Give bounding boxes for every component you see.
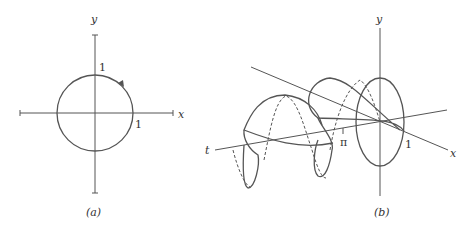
tick-pi: π <box>340 136 347 149</box>
y-label-b: y <box>375 13 383 26</box>
y-label-a: y <box>90 13 98 26</box>
tick-y-a: 1 <box>99 61 106 74</box>
tick-one-b: 1 <box>405 138 412 151</box>
x-label-b: x <box>450 147 457 160</box>
t-label: t <box>205 144 210 157</box>
caption-b: (b) <box>374 206 390 219</box>
caption-a: (a) <box>86 206 101 219</box>
figure: y 1 1 x (a) t y π 1 x (b) <box>0 0 472 229</box>
panel-b <box>215 28 448 196</box>
panel-a <box>20 35 173 193</box>
tick-x-a: 1 <box>135 118 142 131</box>
x-axis-b <box>251 67 448 150</box>
x-label-a: x <box>178 108 185 121</box>
